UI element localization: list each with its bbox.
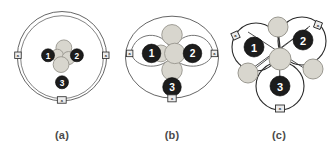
- panel-b: 1 2 3 a a a: [118, 0, 226, 118]
- caption-panel-c: (c): [226, 129, 332, 141]
- light-circle: [269, 48, 291, 70]
- node-3-b[interactable]: 3: [163, 78, 182, 97]
- node-label: 3: [277, 81, 283, 93]
- ring-marker-right-b[interactable]: a: [211, 50, 218, 57]
- node-2-b[interactable]: 2: [183, 44, 202, 63]
- panel-a-canvas: 1 2 3 a a a: [8, 0, 116, 118]
- node-label: 1: [251, 42, 257, 54]
- node-1-c[interactable]: 1: [244, 37, 264, 57]
- panel-a: 1 2 3 a a a: [8, 0, 116, 118]
- orbit-marker-2-c[interactable]: a: [314, 21, 323, 30]
- node-2-a[interactable]: 2: [70, 49, 83, 62]
- ring-marker-bottom-b[interactable]: a: [168, 95, 176, 102]
- node-label: 3: [169, 82, 175, 93]
- node-3-a[interactable]: 3: [55, 76, 68, 89]
- light-circle: [268, 17, 288, 37]
- light-circle: [53, 57, 69, 73]
- ring-marker-right-a[interactable]: a: [103, 52, 110, 59]
- ring-marker-left-b[interactable]: a: [126, 50, 133, 57]
- light-circle: [162, 25, 182, 45]
- node-label: 1: [149, 48, 155, 59]
- caption-panel-b: (b): [118, 129, 226, 141]
- ring-marker-left-a[interactable]: a: [15, 52, 22, 59]
- panel-c-canvas: 1 2 3 a a a: [226, 0, 332, 118]
- node-label: 2: [75, 51, 80, 61]
- caption-panel-a: (a): [8, 129, 116, 141]
- node-3-c[interactable]: 3: [270, 76, 290, 96]
- light-circle: [165, 43, 185, 63]
- orbit-marker-3-c[interactable]: a: [276, 105, 285, 112]
- orbit-marker-1-c[interactable]: a: [231, 31, 240, 40]
- node-2-c[interactable]: 2: [293, 30, 313, 50]
- node-label: 3: [60, 78, 65, 88]
- light-circle: [303, 59, 323, 79]
- node-label: 2: [300, 35, 306, 47]
- node-1-b[interactable]: 1: [142, 44, 161, 63]
- panel-b-canvas: 1 2 3 a a a: [118, 0, 226, 118]
- light-circle: [238, 63, 258, 83]
- figure-root: 1 2 3 a a a: [0, 0, 332, 147]
- node-label: 1: [46, 51, 51, 61]
- panel-c: 1 2 3 a a a: [226, 0, 332, 118]
- ring-marker-bottom-a[interactable]: a: [57, 97, 66, 104]
- node-label: 2: [190, 48, 196, 59]
- node-1-a[interactable]: 1: [42, 49, 55, 62]
